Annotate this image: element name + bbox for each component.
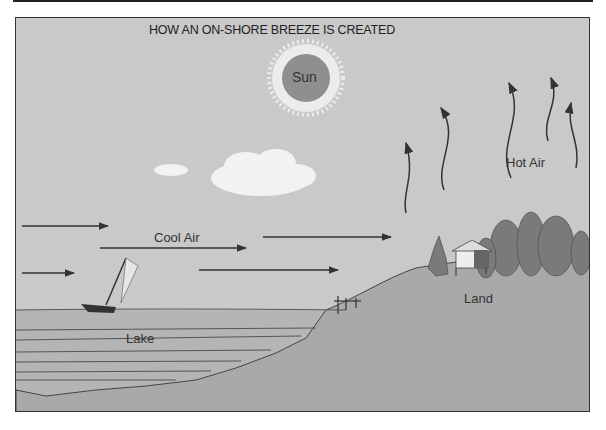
hot-air-label: Hot Air: [506, 155, 545, 170]
diagram-title: HOW AN ON-SHORE BREEZE IS CREATED: [149, 23, 395, 37]
cool-air-label: Cool Air: [154, 230, 200, 245]
lake-label: Lake: [126, 331, 154, 346]
diagram-frame: HOW AN ON-SHORE BREEZE IS CREATED Sun Co…: [15, 17, 590, 412]
top-rule: [13, 0, 593, 2]
land-label: Land: [464, 291, 493, 306]
sun-label: Sun: [292, 69, 317, 85]
